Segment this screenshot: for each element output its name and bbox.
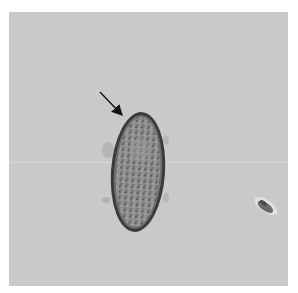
- debris-particle: [252, 194, 280, 219]
- micrograph-overlay: [0, 0, 298, 293]
- pointer-arrow: [100, 92, 121, 114]
- egg: [107, 110, 169, 233]
